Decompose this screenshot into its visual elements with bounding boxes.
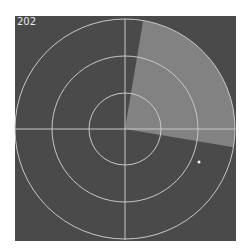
target-blip[interactable] — [198, 161, 201, 164]
radar-label: 202 — [17, 16, 36, 28]
radar-sweep-sector — [125, 21, 235, 148]
radar-display[interactable] — [0, 0, 251, 252]
